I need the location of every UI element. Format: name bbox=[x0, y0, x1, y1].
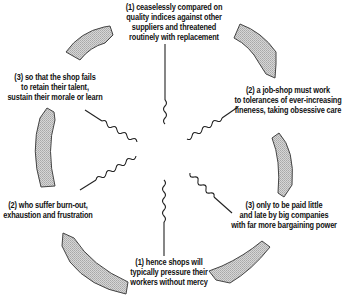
cycle-arrow-4 bbox=[209, 241, 270, 283]
node-left-upper-line-1: (3) so that the shop fails bbox=[6, 73, 105, 83]
node-bottom: (1) hence shops will typically pressure … bbox=[124, 258, 214, 288]
node-right-lower-line-2: and late by big companies bbox=[230, 211, 338, 221]
node-left-lower: (2) who suffer burn-out, exhaustion and … bbox=[3, 201, 93, 221]
connector-right-upper bbox=[187, 107, 238, 140]
node-left-upper-line-3: sustain their morale or learn bbox=[6, 93, 105, 103]
connector-right-lower bbox=[190, 173, 232, 213]
node-left-lower-line-1: (2) who suffer burn-out, bbox=[3, 201, 93, 211]
node-bottom-line-1: (1) hence shops will bbox=[124, 258, 214, 268]
connector-left-upper bbox=[85, 110, 137, 142]
node-top-line-3: suppliers and threatened bbox=[111, 23, 237, 33]
node-bottom-line-3: workers without mercy bbox=[124, 278, 214, 288]
node-right-upper-line-2: to tolerances of ever-increasing bbox=[234, 96, 342, 106]
node-top-line-2: quality indices against other bbox=[111, 13, 237, 23]
cycle-arrow-5 bbox=[62, 233, 128, 294]
node-right-upper-line-1: (2) a job-shop must work bbox=[234, 86, 342, 96]
node-right-lower-line-3: with far more bargaining power bbox=[230, 221, 338, 231]
node-right-upper: (2) a job-shop must work to tolerances o… bbox=[234, 86, 342, 116]
connector-top bbox=[164, 44, 167, 124]
cycle-arrow-2 bbox=[234, 24, 276, 78]
node-top-line-1: (1) ceaselessly compared on bbox=[111, 3, 237, 13]
cycle-arrow-6 bbox=[35, 108, 55, 187]
node-right-lower: (3) only to be paid little and late by b… bbox=[230, 201, 338, 231]
node-right-upper-line-3: fineness, taking obsessive care bbox=[234, 106, 342, 116]
node-left-upper: (3) so that the shop fails to retain the… bbox=[6, 73, 105, 103]
node-right-lower-line-1: (3) only to be paid little bbox=[230, 201, 338, 211]
node-left-upper-line-2: to retain their talent, bbox=[6, 83, 105, 93]
connector-bottom bbox=[163, 180, 166, 256]
node-bottom-line-2: typically pressure their bbox=[124, 268, 214, 278]
cycle-arrow-1 bbox=[66, 26, 113, 60]
node-left-lower-line-2: exhaustion and frustration bbox=[3, 211, 93, 221]
node-top: (1) ceaselessly compared on quality indi… bbox=[111, 3, 237, 43]
node-top-line-4: routinely with replacement bbox=[111, 33, 237, 43]
cycle-arrow-3 bbox=[272, 133, 292, 197]
connector-left-lower bbox=[80, 156, 136, 190]
